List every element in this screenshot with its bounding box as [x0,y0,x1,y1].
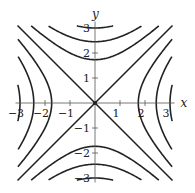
plot-canvas: −3−2−1123−3−2−1123 x y [0,0,195,193]
y-tick-label: −1 [74,122,90,135]
y-tick-label: −2 [74,147,90,160]
x-tick-label: 2 [138,107,145,120]
y-tick-label: 3 [83,22,90,35]
y-tick-label: 1 [83,72,90,85]
origin-dot [93,101,97,105]
y-axis-label: y [91,7,99,21]
y-tick-label: 2 [83,47,90,60]
ticks: −3−2−1123−3−2−1123 [8,22,170,185]
contour-plot: −3−2−1123−3−2−1123 x y [0,0,195,193]
x-tick-label: −3 [8,107,24,120]
x-tick-label: −1 [58,107,74,120]
y-tick-label: −3 [74,172,90,185]
x-tick-label: 1 [113,107,120,120]
x-axis-label: x [181,96,188,110]
x-tick-label: 3 [163,107,170,120]
x-tick-label: −2 [33,107,49,120]
